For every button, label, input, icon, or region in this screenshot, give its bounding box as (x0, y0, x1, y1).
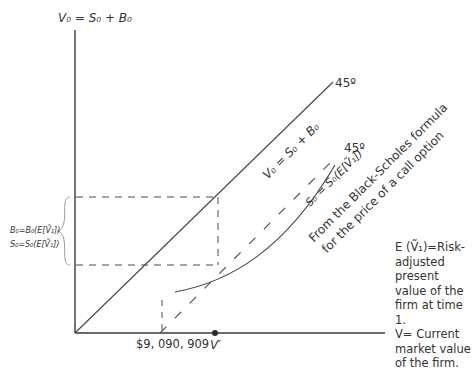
v-prime-point (212, 330, 218, 336)
legend-note: E (Ṽ₁)=Risk-adjusted present value of t… (395, 240, 472, 371)
brace-label-bond: B₀=B₀(E[Ṽ₁]) (10, 226, 60, 236)
note-market-value: V= Current market value of the firm. (395, 327, 472, 371)
line-45-label: 45º (335, 77, 356, 90)
y-axis-label: V₀ = S₀ + B₀ (58, 12, 132, 25)
line-45-degree (75, 82, 333, 333)
dashed-45-line (160, 160, 333, 333)
x-tick-value: $9, 090, 909 (136, 338, 209, 351)
brace-label-stock: S₀=S₀(E[Ṽ₁]) (10, 240, 60, 250)
x-tick-v-prime: V′ (210, 339, 221, 352)
note-risk-adjusted: E (Ṽ₁)=Risk-adjusted present value of t… (395, 240, 472, 327)
